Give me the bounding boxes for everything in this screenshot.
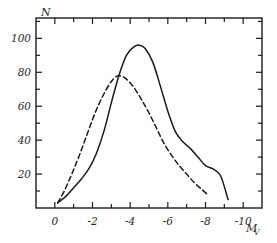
y-tick-label: 60 bbox=[18, 100, 32, 112]
figure-container: 0-2-4-6-8-1020406080100 N M V bbox=[0, 0, 277, 243]
x-tick-label: -4 bbox=[125, 215, 135, 227]
line-chart: 0-2-4-6-8-1020406080100 bbox=[0, 0, 277, 243]
x-tick-label: -8 bbox=[200, 215, 211, 227]
x-tick-label: -10 bbox=[235, 215, 252, 227]
x-tick-label: -2 bbox=[87, 215, 98, 227]
y-tick-label: 100 bbox=[11, 32, 31, 44]
x-tick-label: -6 bbox=[163, 215, 174, 227]
y-tick-label: 20 bbox=[17, 168, 32, 180]
x-tick-label: 0 bbox=[51, 215, 58, 227]
y-tick-label: 40 bbox=[17, 134, 32, 146]
y-tick-label: 80 bbox=[18, 66, 32, 78]
